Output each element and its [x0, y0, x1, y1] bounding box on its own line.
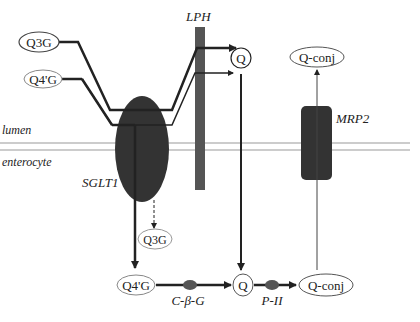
lumen-label: lumen	[2, 123, 31, 137]
cell-q4g-label: Q4'G	[122, 278, 150, 293]
lph-label: LPH	[185, 9, 211, 24]
cbg-enzyme	[183, 280, 197, 290]
diagram-canvas: LPH SGLT1 MRP2 lumen enterocyte Q Q-conj…	[0, 0, 420, 322]
mrp2-label: MRP2	[335, 111, 370, 126]
cell-q-label: Q	[238, 278, 248, 293]
sglt1-label: SGLT1	[82, 175, 119, 190]
sglt1-transporter	[115, 96, 169, 202]
cell-q3g-label: Q3G	[143, 233, 167, 247]
lumen-q-label: Q	[236, 51, 246, 66]
cell-qconj-label: Q-conj	[308, 278, 344, 293]
p2-label: P-II	[261, 293, 284, 308]
lumen-q3g-label: Q3G	[26, 35, 51, 50]
enterocyte-label: enterocyte	[2, 155, 52, 169]
lumen-qconj-label: Q-conj	[299, 50, 335, 65]
lumen-q4g-label: Q4'G	[29, 72, 57, 87]
p2-enzyme	[265, 280, 279, 290]
cbg-label: C-β-G	[171, 293, 205, 308]
